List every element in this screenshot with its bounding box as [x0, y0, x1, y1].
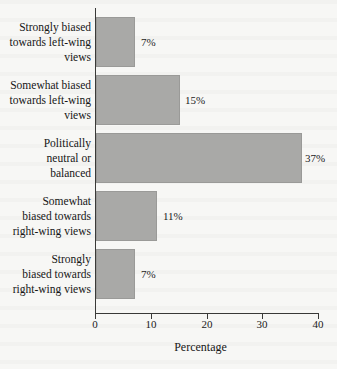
bar-row: Somewhat biased towards left-wing views … — [0, 75, 337, 125]
x-axis-tick-label-0: 0 — [80, 318, 110, 331]
bar — [96, 249, 135, 299]
category-label-line: views — [0, 50, 91, 65]
bar-row: Strongly biased towards left-wing views … — [0, 17, 337, 67]
bar — [96, 75, 180, 125]
category-label-line: right-wing views — [0, 224, 91, 239]
category-label: Somewhat biased towards left-wing views — [0, 78, 91, 123]
bar-row: Politically neutral or balanced 37% — [0, 133, 337, 183]
bar-value-label: 7% — [141, 267, 156, 281]
category-label-line: biased towards — [0, 267, 91, 282]
bar — [96, 17, 135, 67]
x-axis-tick-label-30: 30 — [247, 318, 277, 331]
bar-value-label: 37% — [305, 151, 325, 165]
category-label: Strongly biased towards right-wing views — [0, 252, 91, 297]
category-label-line: views — [0, 108, 91, 123]
category-label-line: towards left-wing — [0, 35, 91, 50]
bar-value-label: 15% — [185, 93, 205, 107]
bar-value-label: 11% — [163, 209, 183, 223]
category-label-line: Strongly biased — [0, 20, 91, 35]
category-label-line: towards left-wing — [0, 93, 91, 108]
x-axis-tick-label-40: 40 — [303, 318, 333, 331]
x-axis-tick-label-10: 10 — [136, 318, 166, 331]
category-label: Somewhat biased towards right-wing views — [0, 194, 91, 239]
bar — [96, 191, 157, 241]
category-label-line: balanced — [0, 166, 91, 181]
bar-value-label: 7% — [141, 35, 156, 49]
category-label-line: Somewhat — [0, 194, 91, 209]
x-axis-title-text: Percentage — [174, 340, 227, 354]
horizontal-bar-chart: 0 10 20 30 40 Strongly biased towards le… — [0, 0, 337, 369]
category-label-line: Somewhat biased — [0, 78, 91, 93]
x-axis-tick-label-20: 20 — [192, 318, 222, 331]
bar — [96, 133, 302, 183]
category-label-line: Strongly — [0, 252, 91, 267]
bar-row: Somewhat biased towards right-wing views… — [0, 191, 337, 241]
category-label-line: neutral or — [0, 151, 91, 166]
category-label-line: biased towards — [0, 209, 91, 224]
category-label: Politically neutral or balanced — [0, 136, 91, 181]
category-label-line: Politically — [0, 136, 91, 151]
x-axis-title: Percentage — [0, 340, 337, 355]
category-label: Strongly biased towards left-wing views — [0, 20, 91, 65]
bar-row: Strongly biased towards right-wing views… — [0, 249, 337, 299]
category-label-line: right-wing views — [0, 282, 91, 297]
